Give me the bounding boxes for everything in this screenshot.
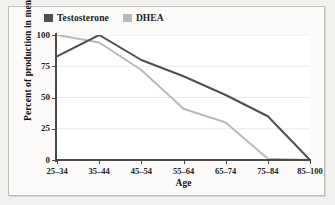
legend-label-testosterone: Testosterone: [57, 13, 109, 23]
x-axis-tick-labels: 25–3435–4445–5455–6465–7475–8485–100: [57, 166, 310, 178]
y-tick-mark: [52, 129, 57, 130]
x-tick-mark: [57, 160, 58, 164]
y-tick-label: 75: [41, 62, 50, 71]
x-tick-label: 45–54: [131, 166, 152, 176]
x-tick-label: 35–44: [89, 166, 110, 176]
y-tick-mark: [52, 66, 57, 67]
legend-entry-testosterone: Testosterone: [44, 13, 109, 23]
x-tick-label: 25–34: [46, 166, 67, 176]
x-tick-label: 55–64: [173, 166, 194, 176]
chart-legend: Testosterone DHEA: [44, 12, 164, 24]
x-tick-mark: [184, 160, 185, 164]
y-tick-label: 50: [41, 93, 50, 102]
x-tick-mark: [99, 160, 100, 164]
x-tick-mark: [226, 160, 227, 164]
y-axis-title: Percent of production in men: [23, 1, 33, 121]
legend-swatch-dhea: [123, 14, 132, 22]
y-tick-label: 0: [46, 156, 51, 165]
gridlines: [57, 35, 310, 160]
chart-figure: Testosterone DHEA 0255075100 25–3435–444…: [0, 0, 335, 205]
legend-label-dhea: DHEA: [136, 13, 164, 23]
chart-canvas: [57, 35, 310, 160]
x-tick-mark: [310, 160, 311, 164]
y-tick-mark: [52, 98, 57, 99]
y-tick-label: 100: [37, 31, 51, 40]
x-tick-label: 85–100: [297, 166, 323, 176]
plot-area: [57, 35, 310, 160]
x-tick-mark: [141, 160, 142, 164]
y-tick-label: 25: [41, 124, 50, 133]
x-axis-title: Age: [57, 178, 310, 188]
x-tick-mark: [268, 160, 269, 164]
legend-entry-dhea: DHEA: [123, 13, 164, 23]
y-tick-mark: [52, 35, 57, 36]
x-tick-label: 65–74: [215, 166, 236, 176]
x-tick-label: 75–84: [257, 166, 278, 176]
